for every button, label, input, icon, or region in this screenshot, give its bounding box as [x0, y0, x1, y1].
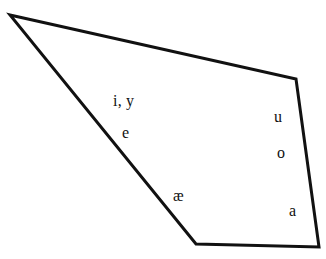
vowel-quadrilateral-figure: i, y e u o æ a [0, 0, 326, 259]
quadrilateral-shape [10, 15, 319, 247]
vowel-label-i-y: i, y [113, 93, 134, 109]
vowel-label-u: u [274, 109, 282, 125]
vowel-quadrilateral-outline [0, 0, 326, 259]
vowel-label-ae: æ [173, 188, 184, 204]
vowel-label-a: a [289, 203, 296, 219]
vowel-label-o: o [277, 145, 285, 161]
vowel-label-e: e [122, 125, 129, 141]
